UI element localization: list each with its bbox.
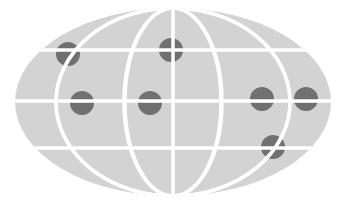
globe-graphic [0,0,346,205]
location-marker[interactable] [250,87,274,111]
location-marker[interactable] [70,91,94,115]
graticule-grid [0,0,346,205]
location-marker[interactable] [138,91,162,115]
globe-diagram: Globe map with location markers [0,0,346,205]
location-marker[interactable] [294,87,318,111]
